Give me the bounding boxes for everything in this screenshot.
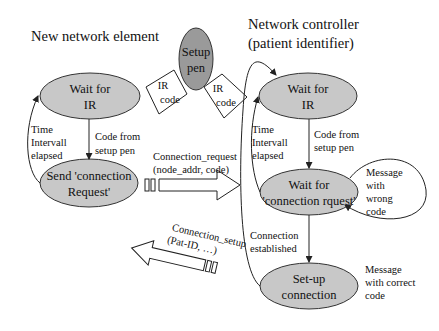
svg-text:Intervall: Intervall bbox=[31, 137, 67, 148]
right-title-line1: Network controller bbox=[248, 16, 359, 32]
svg-text:Message: Message bbox=[365, 264, 402, 275]
state-diagram: New network element Network controller (… bbox=[0, 0, 439, 331]
svg-text:Send 'connection: Send 'connection bbox=[46, 169, 132, 183]
connection-request-arrow: Connection_request (node_addr, code) bbox=[145, 151, 240, 200]
svg-text:Set-up: Set-up bbox=[293, 272, 326, 286]
svg-text:elapsed: elapsed bbox=[252, 150, 284, 161]
right-state-wait-ir: Wait for IR bbox=[259, 73, 357, 119]
svg-text:Wait for: Wait for bbox=[289, 178, 331, 192]
svg-text:Request': Request' bbox=[68, 185, 111, 199]
left-state-send-request: Send 'connection Request' bbox=[40, 159, 138, 207]
svg-text:elapsed: elapsed bbox=[31, 150, 63, 161]
svg-text:with correct: with correct bbox=[365, 277, 416, 288]
setup-pen-line1: Setup bbox=[182, 45, 210, 59]
svg-text:IR: IR bbox=[84, 98, 97, 112]
setup-pen-line2: pen bbox=[187, 61, 206, 75]
svg-text:code: code bbox=[216, 97, 236, 108]
svg-text:code: code bbox=[366, 206, 386, 217]
svg-text:Code from: Code from bbox=[314, 129, 359, 140]
svg-text:Time: Time bbox=[31, 124, 53, 135]
svg-text:Wait for: Wait for bbox=[288, 82, 330, 96]
left-state-wait-ir: Wait for IR bbox=[40, 73, 140, 119]
svg-text:setup pen: setup pen bbox=[314, 142, 355, 153]
right-state-wait-request: Wait for 'connection rquest' bbox=[260, 169, 358, 215]
connection-setup-arrow: Connection_setup (Pat-ID, …) bbox=[129, 214, 248, 286]
ir-code-left: IR code bbox=[146, 70, 187, 114]
svg-text:IR: IR bbox=[158, 80, 169, 91]
svg-text:Wait for: Wait for bbox=[70, 82, 112, 96]
svg-text:Message: Message bbox=[366, 167, 403, 178]
svg-text:IR: IR bbox=[302, 98, 315, 112]
svg-text:code: code bbox=[365, 290, 385, 301]
svg-text:with: with bbox=[366, 180, 385, 191]
left-title: New network element bbox=[31, 28, 159, 44]
svg-text:Intervall: Intervall bbox=[252, 137, 288, 148]
svg-text:(node_addr, code): (node_addr, code) bbox=[153, 164, 229, 176]
svg-text:established: established bbox=[250, 243, 297, 254]
svg-text:'connection rquest': 'connection rquest' bbox=[262, 194, 355, 208]
svg-text:Connection_request: Connection_request bbox=[153, 151, 237, 162]
svg-text:Time: Time bbox=[252, 124, 274, 135]
right-state-setup-connection: Set-up connection bbox=[260, 263, 358, 309]
svg-text:code: code bbox=[160, 94, 180, 105]
svg-text:setup pen: setup pen bbox=[95, 145, 136, 156]
svg-text:connection: connection bbox=[282, 288, 338, 302]
svg-text:Code from: Code from bbox=[95, 131, 140, 142]
svg-text:wrong: wrong bbox=[366, 193, 394, 204]
setup-pen: Setup pen bbox=[179, 28, 213, 90]
svg-text:IR: IR bbox=[213, 83, 224, 94]
right-title-line2: (patient identifier) bbox=[248, 35, 354, 52]
svg-text:Connection: Connection bbox=[250, 230, 299, 241]
ir-code-right: IR code bbox=[204, 74, 247, 118]
